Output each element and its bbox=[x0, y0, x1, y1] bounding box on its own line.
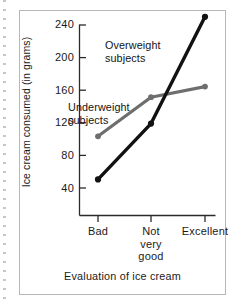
chart-plot-area: Ice cream consumed (in grams) 240 200 16… bbox=[0, 0, 245, 306]
series-annotation-underweight: Underweight subjects bbox=[68, 101, 130, 126]
x-axis-ticks bbox=[98, 216, 205, 223]
x-axis-title: Evaluation of ice cream bbox=[19, 270, 226, 282]
x-tick-label-not-very-good: Not very good bbox=[130, 225, 172, 263]
x-tick-label-excellent: Excellent bbox=[176, 225, 234, 238]
x-tick-label-bad: Bad bbox=[76, 225, 120, 238]
series-annotation-overweight: Overweight subjects bbox=[105, 39, 161, 64]
